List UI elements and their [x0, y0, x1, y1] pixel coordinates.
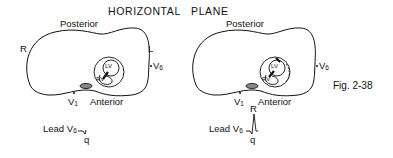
v6-label-right: V6 [319, 60, 329, 71]
lead-label-left: Lead V6 [43, 123, 77, 134]
r-wave-label-right: R [250, 103, 257, 114]
q-wave-label-right: q [250, 134, 255, 145]
v1-label-right: V1 [234, 96, 244, 107]
posterior-label-left: Posterior [60, 18, 98, 29]
anterior-label-left: Anterior [90, 96, 123, 107]
rv-label-left: RV [96, 76, 104, 82]
v6-label-left: V6 [153, 60, 163, 71]
diagram-title: HORIZONTAL PLANE [108, 5, 229, 17]
left-side-label: L [148, 43, 153, 54]
v1-label-left: V1 [68, 96, 78, 107]
lead-label-right: Lead V6 [209, 123, 243, 134]
rv-label-right: RV [262, 76, 270, 82]
ecg-trace-right [246, 114, 258, 134]
posterior-label-right: Posterior [226, 18, 264, 29]
diagram-drawing [0, 0, 393, 158]
heart-right [246, 57, 290, 89]
right-side-label: R [20, 43, 27, 54]
heart-left [80, 57, 124, 89]
lv-label-right: LV [271, 63, 278, 69]
anterior-label-right: Anterior [258, 96, 291, 107]
figure-label: Fig. 2-38 [333, 80, 372, 91]
q-wave-label-left: q [84, 134, 89, 145]
lv-label-left: LV [105, 63, 112, 69]
